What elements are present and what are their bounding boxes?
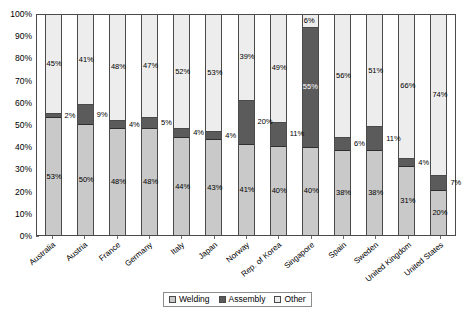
x-axis: AustraliaAustriaFranceGermanyItalyJapanN… — [36, 236, 456, 294]
stacked-bar[interactable]: 66%4%31% — [398, 15, 415, 235]
y-tick-label: 80% — [15, 54, 32, 63]
stacked-bar[interactable]: 74%7%20% — [430, 15, 447, 235]
segment-value-label: 38% — [336, 189, 351, 197]
stacked-bar[interactable]: 45%2%53% — [45, 15, 62, 235]
legend-item[interactable]: Other — [274, 295, 305, 304]
stacked-bar[interactable]: 51%11%38% — [366, 15, 383, 235]
stacked-bar[interactable]: 56%6%38% — [334, 15, 351, 235]
bar-slot: 56%6%38% — [326, 15, 358, 235]
segment-value-label: 44% — [175, 183, 190, 191]
bar-segment-welding[interactable]: 38% — [335, 151, 350, 235]
segment-value-label: 53% — [47, 173, 62, 181]
segment-value-label: 50% — [79, 176, 94, 184]
segment-value-label: 4% — [193, 130, 204, 138]
bar-segment-other[interactable]: 47% — [142, 15, 157, 118]
x-tick-mark — [246, 236, 247, 239]
bar-segment-assembly[interactable]: 6% — [335, 138, 350, 151]
x-tick-mark — [311, 236, 312, 239]
segment-value-label: 40% — [304, 188, 319, 196]
plot-area: 45%2%53%41%9%50%48%4%48%47%5%48%52%4%44%… — [36, 14, 456, 236]
x-axis-tick: Japan — [198, 236, 230, 294]
bar-segment-other[interactable]: 53% — [206, 15, 221, 132]
segment-value-label: 47% — [143, 62, 158, 70]
bar-segment-welding[interactable]: 53% — [46, 118, 61, 235]
bar-segment-assembly[interactable]: 9% — [78, 105, 93, 125]
y-tick-label: 90% — [15, 32, 32, 41]
bar-segment-assembly[interactable]: 7% — [431, 176, 446, 191]
y-tick-label: 30% — [15, 165, 32, 174]
stacked-bar[interactable]: 6%55%40% — [302, 15, 319, 235]
bars-container: 45%2%53%41%9%50%48%4%48%47%5%48%52%4%44%… — [37, 15, 455, 235]
segment-value-label: 20% — [258, 119, 273, 127]
bar-segment-welding[interactable]: 48% — [142, 129, 157, 235]
bar-segment-other[interactable]: 56% — [335, 15, 350, 138]
bar-segment-other[interactable]: 74% — [431, 15, 446, 176]
bar-segment-assembly[interactable]: 4% — [206, 132, 221, 141]
segment-value-label: 40% — [272, 187, 287, 195]
segment-value-label: 20% — [432, 209, 447, 217]
stacked-bar[interactable]: 48%4%48% — [109, 15, 126, 235]
stacked-bar[interactable]: 47%5%48% — [141, 15, 158, 235]
y-tick-label: 70% — [15, 76, 32, 85]
bar-segment-other[interactable]: 49% — [271, 15, 286, 123]
bar-segment-assembly[interactable]: 4% — [174, 129, 189, 138]
legend-swatch-icon — [169, 296, 176, 303]
bar-segment-welding[interactable]: 38% — [367, 151, 382, 235]
bar-segment-other[interactable]: 6% — [303, 15, 318, 28]
bar-segment-welding[interactable]: 43% — [206, 140, 221, 235]
bar-segment-other[interactable]: 48% — [110, 15, 125, 121]
bar-segment-other[interactable]: 39% — [239, 15, 254, 101]
bar-segment-welding[interactable]: 40% — [303, 148, 318, 235]
bar-segment-welding[interactable]: 48% — [110, 129, 125, 235]
bar-segment-welding[interactable]: 44% — [174, 138, 189, 235]
bar-segment-assembly[interactable]: 4% — [399, 159, 414, 168]
bar-segment-welding[interactable]: 20% — [431, 191, 446, 235]
segment-value-label: 66% — [400, 83, 415, 91]
bar-segment-other[interactable]: 51% — [367, 15, 382, 127]
legend-item[interactable]: Welding — [169, 295, 210, 304]
bar-segment-other[interactable]: 45% — [46, 15, 61, 114]
bar-segment-other[interactable]: 52% — [174, 15, 189, 129]
bar-segment-welding[interactable]: 41% — [239, 145, 254, 235]
stacked-bar[interactable]: 41%9%50% — [77, 15, 94, 235]
bar-slot: 53%4%43% — [198, 15, 230, 235]
stacked-bar[interactable]: 39%20%41% — [238, 15, 255, 235]
bar-segment-welding[interactable]: 50% — [78, 125, 93, 235]
legend-item[interactable]: Assembly — [219, 295, 266, 304]
stacked-bar[interactable]: 52%4%44% — [173, 15, 190, 235]
segment-value-label: 56% — [336, 72, 351, 80]
segment-value-label: 48% — [111, 64, 126, 72]
x-axis-label: Japan — [197, 241, 219, 261]
legend-label: Assembly — [229, 295, 266, 304]
segment-value-label: 41% — [79, 56, 94, 64]
bar-segment-other[interactable]: 41% — [78, 15, 93, 105]
bar-segment-assembly[interactable]: 11% — [271, 123, 286, 147]
bar-segment-assembly[interactable]: 5% — [142, 118, 157, 129]
legend-label: Welding — [179, 295, 210, 304]
bar-segment-other[interactable]: 66% — [399, 15, 414, 159]
bar-slot: 45%2%53% — [37, 15, 69, 235]
segment-value-label: 48% — [143, 178, 158, 186]
bar-segment-assembly[interactable]: 20% — [239, 101, 254, 145]
chart-legend: WeldingAssemblyOther — [163, 292, 312, 307]
segment-value-label: 51% — [368, 67, 383, 75]
bar-segment-welding[interactable]: 31% — [399, 167, 414, 235]
bar-segment-assembly[interactable]: 55% — [303, 28, 318, 148]
x-tick-mark — [117, 236, 118, 239]
x-axis-tick: Austria — [68, 236, 100, 294]
bar-segment-assembly[interactable]: 11% — [367, 127, 382, 151]
x-tick-mark — [84, 236, 85, 239]
segment-value-label: 41% — [240, 186, 255, 194]
bar-segment-assembly[interactable]: 4% — [110, 121, 125, 130]
x-tick-mark — [181, 236, 182, 239]
x-axis-label: Austria — [65, 241, 89, 263]
segment-value-label: 11% — [386, 135, 400, 143]
x-axis-label: Italy — [170, 241, 186, 257]
x-tick-mark — [214, 236, 215, 239]
bar-segment-welding[interactable]: 40% — [271, 147, 286, 235]
segment-value-label: 74% — [432, 91, 447, 99]
y-tick-label: 50% — [15, 121, 32, 130]
x-tick-mark — [343, 236, 344, 239]
y-tick-label: 100% — [10, 10, 32, 19]
stacked-bar[interactable]: 53%4%43% — [205, 15, 222, 235]
